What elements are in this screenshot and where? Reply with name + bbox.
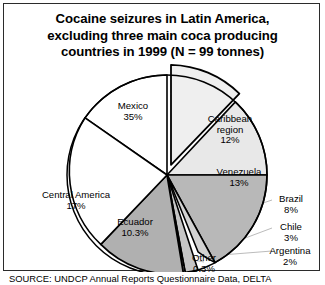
pie-label-chile-value: 3% bbox=[266, 233, 316, 244]
pie-label-argentina: Argentina 2% bbox=[260, 246, 320, 267]
pie-label-mexico-name: Mexico bbox=[88, 101, 178, 112]
pie-label-venezuela: Venezuela 13% bbox=[200, 167, 278, 188]
source-note: SOURCE: UNDCP Annual Reports Questionnai… bbox=[9, 273, 319, 284]
pie-label-caribbean: Caribbean region 12% bbox=[192, 114, 268, 146]
pie-label-venezuela-name: Venezuela bbox=[200, 167, 278, 178]
pie-label-ecuador: Ecuador 10.3% bbox=[102, 217, 168, 238]
pie-label-venezuela-value: 13% bbox=[200, 178, 278, 189]
pie-label-ecuador-name: Ecuador bbox=[102, 217, 168, 228]
pie-label-other: Other 0.3% bbox=[178, 253, 230, 274]
pie-label-central-america: Central America 17% bbox=[26, 190, 126, 211]
chart-frame: Cocaine seizures in Latin America, exclu… bbox=[3, 3, 320, 271]
pie-label-brazil: Brazil 8% bbox=[266, 194, 316, 215]
pie-label-argentina-name: Argentina bbox=[260, 246, 320, 257]
pie-label-caribbean-value: 12% bbox=[192, 135, 268, 146]
pie-label-brazil-value: 8% bbox=[266, 205, 316, 216]
pie-label-central-america-name: Central America bbox=[26, 190, 126, 201]
pie-label-mexico: Mexico 35% bbox=[88, 101, 178, 122]
pie-label-ecuador-value: 10.3% bbox=[102, 228, 168, 239]
pie-label-chile-name: Chile bbox=[266, 222, 316, 233]
pie-label-argentina-value: 2% bbox=[260, 257, 320, 268]
pie-label-central-america-value: 17% bbox=[26, 201, 126, 212]
pie-label-caribbean-name-1: Caribbean bbox=[192, 114, 268, 125]
pie-label-chile: Chile 3% bbox=[266, 222, 316, 243]
pie-label-other-name: Other bbox=[178, 253, 230, 264]
pie-label-brazil-name: Brazil bbox=[266, 194, 316, 205]
pie-label-mexico-value: 35% bbox=[88, 112, 178, 123]
